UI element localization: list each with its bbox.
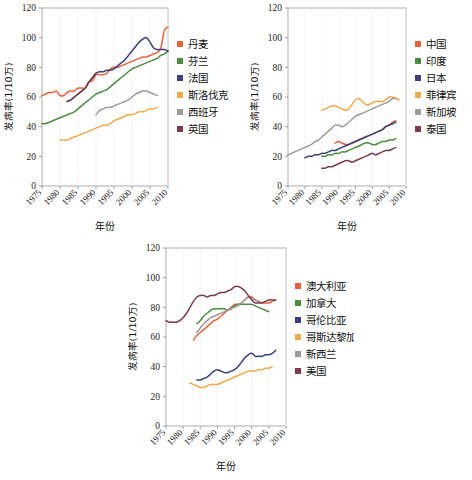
chart-panel-americas: 020406080100120发病率(1/10万)197519801985199…	[118, 238, 354, 480]
x-axis-title: 年份	[95, 220, 115, 232]
figure-three-line-charts: 020406080100120发病率(1/10万)197519801985199…	[0, 0, 472, 480]
x-tick-label: 1985	[60, 187, 80, 207]
x-tick-label: 1975	[24, 187, 44, 207]
y-tick-label: 80	[151, 303, 161, 313]
legend-swatch	[295, 334, 301, 340]
x-tick-label: 2005	[250, 427, 270, 447]
y-axis: 020406080100120	[22, 3, 42, 191]
y-tick-label: 40	[151, 362, 161, 372]
x-tick-label: 2005	[371, 187, 391, 207]
x-tick-label: 1995	[337, 187, 357, 207]
legend-swatch	[415, 92, 421, 98]
x-tick-label: 1995	[216, 427, 236, 447]
legend-label-新西兰: 新西兰	[306, 348, 336, 360]
y-tick-label: 120	[22, 3, 37, 13]
legend-label-斯洛伐克: 斯洛伐克	[188, 89, 229, 101]
chart-svg-europe: 020406080100120发病率(1/10万)197519801985199…	[0, 0, 236, 238]
legend-swatch	[295, 300, 301, 306]
chart-panel-europe: 020406080100120发病率(1/10万)197519801985199…	[0, 0, 236, 238]
plot-area	[42, 8, 168, 186]
legend: 澳大利亚加拿大哥伦比亚哥斯达黎加新西兰美国	[295, 280, 354, 377]
x-axis: 19751980198519901995200020052010	[270, 186, 408, 207]
legend-label-芬兰: 芬兰	[188, 55, 208, 67]
x-tick-label: 1975	[148, 427, 168, 447]
legend-label-法国: 法国	[188, 72, 208, 84]
y-tick-label: 120	[268, 3, 283, 13]
x-tick-label: 1990	[320, 187, 340, 207]
x-tick-label: 1980	[286, 187, 306, 207]
legend-swatch	[177, 109, 183, 115]
y-axis-title: 发病率(1/10万)	[3, 63, 14, 132]
x-axis-title: 年份	[216, 460, 236, 472]
y-axis-title: 发病率(1/10万)	[249, 63, 260, 132]
y-tick-label: 60	[27, 92, 37, 102]
legend-swatch	[177, 92, 183, 98]
y-tick-label: 120	[146, 243, 161, 253]
legend-label-西班牙: 西班牙	[188, 106, 218, 118]
x-tick-label: 1985	[182, 427, 202, 447]
y-tick-label: 40	[273, 122, 283, 132]
legend-label-英国: 英国	[188, 123, 208, 135]
x-tick-label: 1990	[78, 187, 98, 207]
legend-label-澳大利亚: 澳大利亚	[306, 280, 347, 292]
y-tick-label: 40	[27, 122, 37, 132]
legend-label-新加坡: 新加坡	[426, 106, 457, 118]
legend-label-印度: 印度	[426, 55, 447, 67]
legend-label-中国: 中国	[426, 38, 446, 50]
y-tick-label: 100	[146, 273, 161, 283]
y-tick-label: 20	[151, 392, 161, 402]
x-axis-title: 年份	[337, 220, 357, 232]
y-tick-label: 60	[151, 332, 161, 342]
y-tick-label: 20	[273, 152, 283, 162]
legend-swatch	[415, 58, 421, 64]
y-tick-label: 20	[27, 152, 37, 162]
y-tick-label: 100	[22, 33, 37, 43]
y-tick-label: 100	[268, 33, 283, 43]
x-tick-label: 1980	[42, 187, 62, 207]
legend-swatch	[295, 351, 301, 357]
y-tick-label: 80	[273, 63, 283, 73]
legend-swatch	[415, 126, 421, 132]
legend-swatch	[177, 126, 183, 132]
y-axis: 020406080100120	[268, 3, 288, 191]
x-tick-label: 1980	[165, 427, 185, 447]
legend-swatch	[295, 283, 301, 289]
x-tick-label: 2010	[268, 427, 288, 447]
chart-svg-americas: 020406080100120发病率(1/10万)197519801985199…	[118, 238, 354, 480]
legend-swatch	[177, 75, 183, 81]
x-axis: 19751980198519901995200020052010	[148, 426, 288, 447]
legend-swatch	[415, 109, 421, 115]
x-tick-label: 2010	[388, 187, 408, 207]
legend-swatch	[295, 368, 301, 374]
x-tick-label: 1995	[96, 187, 116, 207]
x-tick-label: 2000	[114, 187, 134, 207]
legend-label-菲律宾: 菲律宾	[426, 89, 456, 101]
x-tick-label: 2000	[233, 427, 253, 447]
chart-panel-asia: 020406080100120发病率(1/10万)197519801985199…	[236, 0, 472, 238]
y-axis: 020406080100120	[146, 243, 166, 431]
legend-swatch	[177, 58, 183, 64]
legend-swatch	[415, 41, 421, 47]
legend: 中国印度日本菲律宾新加坡泰国	[415, 38, 457, 135]
legend-swatch	[177, 41, 183, 47]
legend-label-美国: 美国	[306, 365, 326, 377]
legend-swatch	[415, 75, 421, 81]
legend-label-哥斯达黎加: 哥斯达黎加	[306, 331, 354, 343]
x-tick-label: 1975	[270, 187, 290, 207]
chart-svg-asia: 020406080100120发病率(1/10万)197519801985199…	[236, 0, 472, 238]
x-tick-label: 2005	[132, 187, 152, 207]
plot-area	[166, 248, 286, 426]
y-axis-title: 发病率(1/10万)	[127, 303, 138, 372]
legend-label-泰国: 泰国	[426, 123, 446, 135]
x-axis: 19751980198519901995200020052010	[24, 186, 170, 207]
legend-label-哥伦比亚: 哥伦比亚	[306, 314, 347, 326]
y-tick-label: 60	[273, 92, 283, 102]
legend-swatch	[295, 317, 301, 323]
y-tick-label: 80	[27, 63, 37, 73]
legend-label-日本: 日本	[426, 72, 447, 84]
x-tick-label: 2000	[354, 187, 374, 207]
x-tick-label: 1990	[199, 427, 219, 447]
x-tick-label: 1985	[303, 187, 323, 207]
legend-label-丹麦: 丹麦	[188, 38, 209, 50]
legend: 丹麦芬兰法国斯洛伐克西班牙英国	[177, 38, 229, 135]
